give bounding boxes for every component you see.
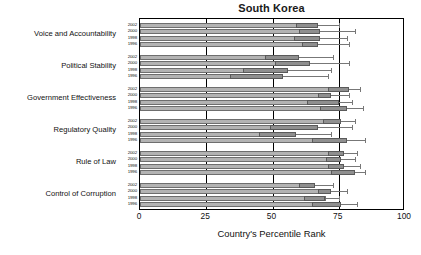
bar-confidence-segment [299,183,315,188]
bar-row [140,157,405,162]
year-label: 1998 [128,35,137,40]
bar-confidence-segment [304,196,325,201]
year-label: 2002 [128,54,137,59]
x-tick-label: 100 [389,211,419,221]
bar-row [140,119,405,124]
year-label: 2000 [128,124,137,129]
year-label: 1996 [128,137,137,142]
bar-row [140,202,405,207]
year-label: 1996 [128,201,137,206]
year-label: 2002 [128,86,137,91]
bar-row [140,55,405,60]
year-label: 1998 [128,195,137,200]
error-bar-cap-high [333,55,334,60]
error-bar-cap-high [365,138,366,143]
gridline-75 [339,19,340,209]
error-bar-cap-high [355,119,356,124]
bar-row [140,68,405,73]
year-label: 1996 [128,73,137,78]
error-bar-cap-high [352,100,353,105]
year-label: 2002 [128,22,137,27]
bar-row [140,61,405,66]
bar-row [140,23,405,28]
error-bar-cap-high [360,87,361,92]
bar-confidence-segment [243,68,288,73]
bar [140,183,315,188]
error-bar-cap-high [347,36,348,41]
year-label: 2002 [128,118,137,123]
error-bar-cap-high [349,42,350,47]
error-bar-cap-high [339,23,340,28]
bar-confidence-segment [307,100,339,105]
bar-row [140,183,405,188]
year-label: 2000 [128,28,137,33]
plot-area [139,18,404,210]
error-bar-cap-high [363,106,364,111]
year-label: 1998 [128,99,137,104]
bar-row [140,42,405,47]
year-label: 2002 [128,182,137,187]
x-tick-label: 25 [190,211,220,221]
gridline-25 [206,19,207,209]
error-bar-cap-high [357,151,358,156]
bar-confidence-segment [299,29,320,34]
error-bar-cap-high [347,189,348,194]
year-label-column: 2002200019981996200220001998199620022000… [0,18,137,210]
bar-row [140,74,405,79]
error-bar-cap-high [349,93,350,98]
bar-row [140,132,405,137]
bar-confidence-segment [230,74,283,79]
bar-row [140,100,405,105]
bar-confidence-segment [312,138,346,143]
bar [140,202,341,207]
error-bar-cap-high [349,61,350,66]
bar [140,23,318,28]
error-bar-cap-high [360,164,361,169]
chart-root: South Korea Voice and AccountabilityPoli… [0,0,421,255]
year-label: 1998 [128,131,137,136]
year-label: 1996 [128,169,137,174]
bar-confidence-segment [259,132,296,137]
year-label: 2000 [128,92,137,97]
bar-row [140,106,405,111]
bar-confidence-segment [328,87,349,92]
bar-confidence-segment [326,157,342,162]
bar-row [140,87,405,92]
bar-confidence-segment [320,106,347,111]
bar [140,119,341,124]
bar-row [140,125,405,130]
bar-row [140,36,405,41]
year-label: 2002 [128,150,137,155]
bar-confidence-segment [318,189,331,194]
bar [140,87,349,92]
error-bar-cap-high [355,157,356,162]
x-tick-label: 50 [257,211,287,221]
x-tick-label: 0 [124,211,154,221]
year-label: 1998 [128,67,137,72]
year-label: 1996 [128,41,137,46]
bar-row [140,189,405,194]
bar-confidence-segment [323,119,342,124]
x-tick-label: 75 [323,211,353,221]
bar-row [140,29,405,34]
error-bar-cap-high [357,202,358,207]
gridline-50 [273,19,274,209]
bar [140,157,341,162]
bar [140,164,344,169]
error-bar-cap-high [331,68,332,73]
bar-row [140,164,405,169]
bar [140,151,344,156]
year-label: 2000 [128,156,137,161]
bar-row [140,138,405,143]
bar-confidence-segment [302,42,318,47]
bar-confidence-segment [296,23,317,28]
error-bar-cap-high [328,74,329,79]
bar-row [140,170,405,175]
year-label: 2000 [128,188,137,193]
error-bar-cap-high [352,125,353,130]
bar-confidence-segment [294,36,321,41]
year-label: 1998 [128,163,137,168]
year-label: 1996 [128,105,137,110]
bar [140,189,331,194]
bar-row [140,93,405,98]
